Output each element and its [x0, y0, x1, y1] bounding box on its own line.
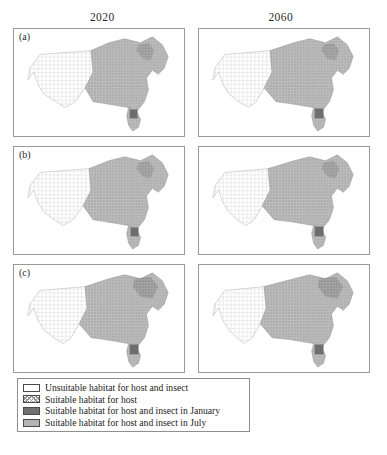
legend-item-host: Suitable habitat for host	[23, 394, 245, 406]
legend-item-unsuitable: Unsuitable habitat for host and insect	[23, 382, 245, 394]
map-panel-b-2060	[198, 146, 370, 255]
july-swatch-icon	[23, 419, 40, 427]
panel-label-c: (c)	[19, 267, 30, 279]
legend-item-january: Suitable habitat for host and insect in …	[23, 405, 245, 417]
host-swatch-icon	[23, 395, 40, 403]
map-panel-a-2020: (a)	[13, 28, 185, 137]
map-graphic-b-2060	[199, 147, 369, 254]
legend: Unsuitable habitat for host and insect S…	[17, 378, 250, 432]
map-graphic-c-2060	[199, 265, 369, 372]
panel-label-a: (a)	[19, 31, 30, 43]
legend-label-host: Suitable habitat for host	[45, 394, 137, 405]
map-panel-c-2060	[198, 264, 370, 373]
column-header-2020: 2020	[13, 8, 192, 28]
map-graphic-a-2060	[199, 29, 369, 136]
legend-item-july: Suitable habitat for host and insect in …	[23, 417, 245, 429]
map-graphic-c-2020	[14, 265, 184, 372]
column-headers: 2020 2060	[13, 8, 370, 28]
map-graphic-a-2020	[14, 29, 184, 136]
unsuitable-swatch-icon	[23, 384, 40, 392]
map-panel-b-2020: (b)	[13, 146, 185, 255]
map-panel-grid: (a)	[13, 28, 370, 373]
map-panel-c-2020: (c)	[13, 264, 185, 373]
legend-label-unsuitable: Unsuitable habitat for host and insect	[45, 382, 188, 393]
map-panel-a-2060	[198, 28, 370, 137]
map-graphic-b-2020	[14, 147, 184, 254]
panel-label-b: (b)	[19, 149, 31, 161]
january-swatch-icon	[23, 407, 40, 415]
legend-label-january: Suitable habitat for host and insect in …	[45, 405, 220, 416]
column-header-2060: 2060	[192, 8, 371, 28]
legend-label-july: Suitable habitat for host and insect in …	[45, 417, 206, 428]
